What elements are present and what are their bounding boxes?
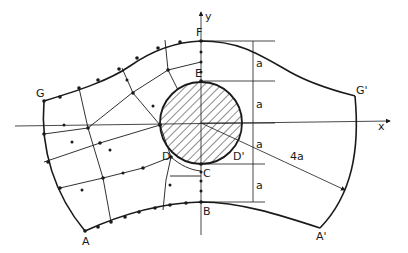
label-y: y bbox=[205, 10, 212, 23]
dim-radius-4a: 4a bbox=[290, 150, 304, 163]
label-x: x bbox=[378, 120, 385, 133]
label-e: E bbox=[195, 67, 202, 80]
label-d-prime: D' bbox=[233, 150, 245, 163]
dim-a-1: a bbox=[256, 57, 263, 70]
label-g-prime: G' bbox=[356, 84, 368, 97]
label-a-prime: A' bbox=[316, 230, 327, 243]
dim-a-4: a bbox=[256, 179, 263, 192]
label-d: D bbox=[162, 150, 170, 163]
label-g: G bbox=[36, 87, 45, 100]
mesh-diagram: G F E C B D D' A A' G' x y a a a a 4a bbox=[0, 0, 408, 253]
label-a: A bbox=[82, 235, 90, 248]
dim-a-3: a bbox=[256, 138, 263, 151]
label-f: F bbox=[196, 26, 202, 39]
label-b: B bbox=[203, 205, 211, 218]
label-c: C bbox=[203, 167, 211, 180]
dim-a-2: a bbox=[256, 98, 263, 111]
